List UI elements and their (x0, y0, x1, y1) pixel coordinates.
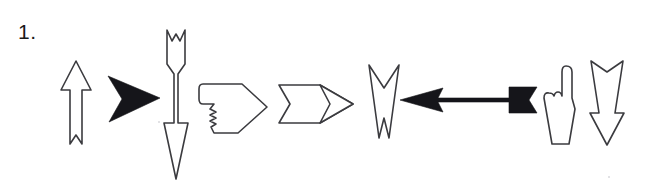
arrow-up-outline-icon (55, 58, 99, 150)
arrow-down-long-fletched-outline-icon (160, 28, 192, 183)
worksheet-canvas: 1. (0, 0, 649, 188)
paper-speck (608, 176, 610, 178)
arrowhead-down-outline-icon (366, 62, 402, 142)
hand-pointing-up-icon (542, 63, 580, 148)
arrow-down-outline-icon (586, 58, 628, 148)
page-title: 1. (18, 21, 37, 42)
arrowhead-right-solid-icon (106, 74, 162, 124)
hand-pointing-right-icon (197, 80, 269, 137)
double-chevron-right-outline-icon (276, 82, 356, 126)
arrow-left-solid-fletched-icon (399, 85, 539, 115)
paper-speck (158, 121, 160, 123)
